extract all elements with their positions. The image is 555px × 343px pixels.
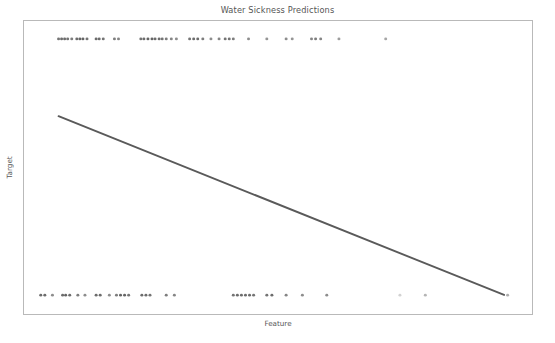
scatter-point	[236, 294, 239, 297]
scatter-point	[68, 294, 71, 297]
scatter-point	[209, 37, 212, 40]
chart-title: Water Sickness Predictions	[0, 5, 555, 15]
scatter-point	[314, 37, 317, 40]
scatter-point	[165, 37, 168, 40]
chart-figure: Water Sickness Predictions Feature Targe…	[0, 0, 555, 343]
scatter-point	[173, 294, 176, 297]
scatter-point	[158, 37, 161, 40]
scatter-point	[285, 294, 288, 297]
scatter-point	[188, 37, 191, 40]
scatter-point	[115, 294, 118, 297]
scatter-point	[240, 294, 243, 297]
scatter-point	[232, 37, 235, 40]
y-axis-label-wrapper: Target	[2, 20, 16, 315]
prediction-line	[59, 116, 505, 295]
scatter-point	[113, 37, 116, 40]
scatter-point	[192, 37, 195, 40]
scatter-point	[248, 294, 251, 297]
y-axis-label: Target	[5, 156, 14, 178]
scatter-point	[83, 294, 86, 297]
scatter-point	[51, 294, 54, 297]
scatter-point	[43, 294, 46, 297]
scatter-point	[265, 37, 268, 40]
scatter-point	[78, 37, 81, 40]
scatter-point	[319, 37, 322, 40]
scatter-point	[218, 37, 221, 40]
scatter-points-group	[39, 37, 509, 296]
scatter-point	[154, 37, 157, 40]
scatter-point	[252, 294, 255, 297]
scatter-point	[228, 37, 231, 40]
scatter-point	[310, 37, 313, 40]
scatter-point	[99, 294, 102, 297]
plot-area	[23, 20, 533, 315]
scatter-point	[175, 37, 178, 40]
scatter-point	[123, 294, 126, 297]
scatter-point	[224, 37, 227, 40]
scatter-point	[102, 37, 105, 40]
scatter-point	[196, 37, 199, 40]
scatter-point	[232, 294, 235, 297]
scatter-point	[98, 37, 101, 40]
scatter-point	[81, 37, 84, 40]
scatter-point	[61, 294, 64, 297]
scatter-point	[201, 37, 204, 40]
scatter-point	[85, 37, 88, 40]
scatter-point	[75, 37, 78, 40]
scatter-point	[244, 294, 247, 297]
scatter-point	[398, 294, 401, 297]
scatter-point	[170, 37, 173, 40]
scatter-point	[70, 37, 73, 40]
scatter-point	[151, 37, 154, 40]
scatter-point	[66, 37, 69, 40]
scatter-point	[39, 294, 42, 297]
scatter-point	[384, 37, 387, 40]
scatter-point	[325, 294, 328, 297]
regression-line-group	[59, 116, 505, 295]
scatter-point	[117, 37, 120, 40]
scatter-point	[95, 37, 98, 40]
scatter-point	[63, 37, 66, 40]
scatter-point	[95, 294, 98, 297]
scatter-point	[148, 294, 151, 297]
scatter-point	[139, 37, 142, 40]
x-axis-label: Feature	[23, 319, 533, 328]
scatter-point	[285, 37, 288, 40]
scatter-point	[424, 294, 427, 297]
scatter-point	[161, 37, 164, 40]
scatter-point	[291, 37, 294, 40]
scatter-point	[270, 294, 273, 297]
scatter-point	[146, 37, 149, 40]
scatter-point	[144, 294, 147, 297]
plot-canvas	[24, 21, 532, 314]
scatter-point	[57, 37, 60, 40]
scatter-point	[76, 294, 79, 297]
scatter-point	[165, 294, 168, 297]
scatter-point	[247, 37, 250, 40]
scatter-point	[337, 37, 340, 40]
scatter-point	[506, 294, 509, 297]
scatter-point	[60, 37, 63, 40]
scatter-point	[301, 294, 304, 297]
scatter-point	[265, 294, 268, 297]
scatter-point	[142, 37, 145, 40]
scatter-point	[119, 294, 122, 297]
scatter-point	[64, 294, 67, 297]
scatter-point	[140, 294, 143, 297]
scatter-point	[108, 294, 111, 297]
scatter-point	[127, 294, 130, 297]
